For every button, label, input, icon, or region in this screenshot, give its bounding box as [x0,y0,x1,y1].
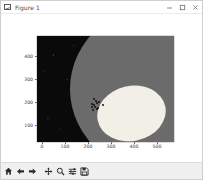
home-button[interactable] [3,165,14,178]
scatter-point [98,101,100,103]
back-button[interactable] [15,165,26,178]
y-tick-label: 200 [15,100,33,105]
forward-button[interactable] [27,165,38,178]
scatter-point [92,109,94,111]
x-tick-label: 200 [79,144,97,149]
move-cross-icon [44,167,53,176]
y-tick-label: 100 [15,123,33,128]
maximize-button[interactable] [176,1,189,14]
scatter-point [96,108,98,110]
scatter-point [102,104,104,106]
x-tick-label: 100 [56,144,74,149]
window-title: Figure 1 [15,1,40,14]
save-button[interactable] [79,165,90,178]
floppy-disk-icon [80,167,89,176]
y-tick-label: 400 [15,54,33,59]
zoom-button[interactable] [55,165,66,178]
x-tick-label: 300 [102,144,120,149]
pan-button[interactable] [43,165,54,178]
x-tick-label: 0 [33,144,51,149]
x-tick-label: 400 [125,144,143,149]
home-icon [4,167,13,176]
close-button[interactable] [189,1,202,14]
configure-subplots-button[interactable] [67,165,78,178]
window-controls [163,1,202,14]
matplotlib-figure-icon [4,3,12,11]
figure-canvas[interactable]: 400 300 200 100 0 100 200 300 400 500 [1,14,202,162]
magnifier-icon [56,167,65,176]
arrow-right-icon [28,167,37,176]
sliders-icon [68,167,77,176]
x-tick-label: 500 [148,144,166,149]
figure-window: Figure 1 400 300 200 100 0 100 200 [0,0,203,180]
y-tick-label: 300 [15,77,33,82]
image-axes[interactable] [37,36,174,142]
arrow-left-icon [16,167,25,176]
scatter-point [93,98,95,100]
scatter-point [91,106,93,108]
title-bar: Figure 1 [1,1,202,14]
navigation-toolbar [1,162,202,179]
minimize-button[interactable] [163,1,176,14]
